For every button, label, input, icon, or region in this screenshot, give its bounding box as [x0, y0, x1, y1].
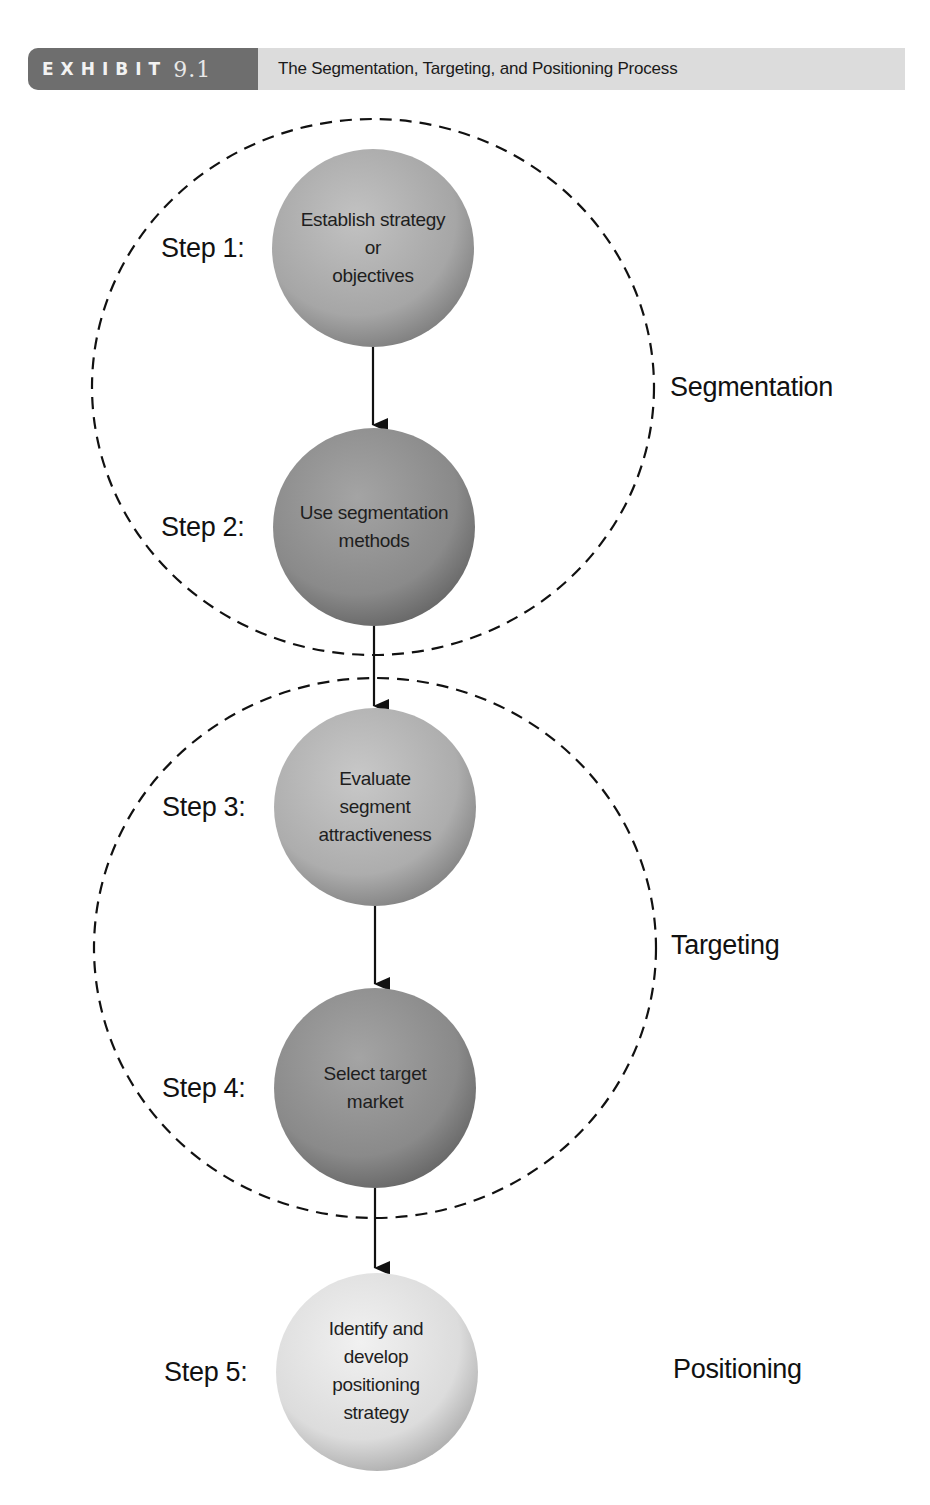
- step-4-label: Step 4:: [162, 1073, 245, 1104]
- step-4-text: Select target market: [275, 1060, 475, 1116]
- step-2-label: Step 2:: [161, 512, 244, 543]
- phase-targeting-label: Targeting: [671, 930, 779, 961]
- step-3-text: Evaluate segment attractiveness: [275, 765, 475, 849]
- phase-positioning-label: Positioning: [673, 1354, 802, 1385]
- step-1-label: Step 1:: [161, 233, 244, 264]
- step-5-text: Identify and develop positioning strateg…: [276, 1315, 476, 1427]
- step-3-label: Step 3:: [162, 792, 245, 823]
- phase-segmentation-label: Segmentation: [670, 372, 833, 403]
- step-5-label: Step 5:: [164, 1357, 247, 1388]
- step-2-text: Use segmentation methods: [274, 499, 474, 555]
- step-1-text: Establish strategy or objectives: [273, 206, 473, 290]
